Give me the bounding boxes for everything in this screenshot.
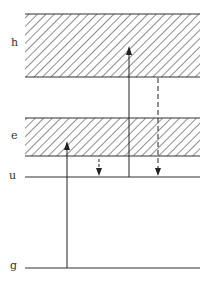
energy-level-diagram: h e u g — [0, 0, 214, 286]
band-h — [25, 14, 200, 77]
label-g: g — [10, 259, 17, 272]
transition-e-to-u-dashed-arrow — [96, 159, 102, 176]
transition-g-to-e-arrow — [64, 141, 70, 268]
diagram-canvas — [0, 0, 214, 286]
band-e — [25, 118, 200, 156]
label-e: e — [11, 129, 18, 142]
label-u: u — [9, 169, 16, 182]
label-h: h — [11, 36, 18, 49]
